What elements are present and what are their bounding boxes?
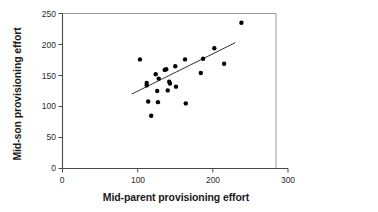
x-tick-marks — [63, 169, 289, 173]
data-point — [168, 81, 172, 85]
data-point — [146, 99, 150, 103]
x-tick-label: 200 — [198, 176, 228, 185]
data-point — [157, 76, 161, 80]
data-point — [155, 89, 159, 93]
data-point — [184, 101, 188, 105]
y-tick-label: 100 — [30, 102, 56, 111]
data-points — [138, 21, 244, 118]
x-axis-label: Mid-parent provisioning effort — [60, 191, 292, 203]
data-point — [154, 72, 158, 76]
scatter-plot-figure: Mid-son provisioning effort Mid-parent p… — [0, 0, 378, 212]
data-point — [164, 67, 168, 71]
data-point — [174, 84, 178, 88]
x-tick-label: 0 — [47, 176, 77, 185]
data-point — [212, 46, 216, 50]
data-point — [199, 71, 203, 75]
data-point — [156, 100, 160, 104]
x-tick-label: 300 — [273, 176, 303, 185]
data-point — [149, 114, 153, 118]
y-axis-label: Mid-son provisioning effort — [11, 9, 23, 179]
data-point — [173, 64, 177, 68]
y-tick-label: 150 — [30, 72, 56, 81]
x-tick-label: 100 — [123, 176, 153, 185]
y-tick-marks — [59, 14, 63, 169]
data-point — [138, 57, 142, 61]
plot-axes — [62, 14, 288, 169]
y-tick-label: 0 — [30, 164, 56, 173]
y-tick-label: 250 — [30, 10, 56, 19]
data-point — [239, 21, 243, 25]
data-point — [144, 83, 148, 87]
data-point — [183, 57, 187, 61]
data-point — [166, 88, 170, 92]
y-tick-label: 200 — [30, 41, 56, 50]
data-point — [201, 57, 205, 61]
data-point — [222, 62, 226, 66]
y-tick-label: 50 — [30, 133, 56, 142]
